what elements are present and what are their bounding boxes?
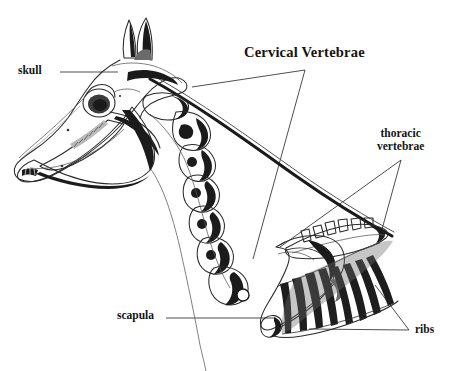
label-thoracic-line1: thoracic bbox=[377, 127, 424, 140]
label-thoracic-line2: vertebrae bbox=[377, 140, 424, 153]
label-scapula: scapula bbox=[117, 309, 154, 322]
vertebra-c7-foramen bbox=[237, 289, 249, 301]
label-cervical-vertebrae: Cervical Vertebrae bbox=[244, 44, 365, 60]
vertebra-c3-foramen bbox=[187, 157, 197, 167]
label-thoracic-vertebrae: thoracic vertebrae bbox=[377, 127, 424, 153]
supraorbital-foramen bbox=[119, 95, 121, 97]
label-ribs: ribs bbox=[415, 323, 434, 336]
horse-skeleton-illustration bbox=[0, 0, 453, 371]
label-skull: skull bbox=[18, 64, 42, 77]
orbit-socket-inner bbox=[93, 99, 107, 111]
vertebra-c5-foramen bbox=[197, 219, 207, 229]
anatomy-diagram: skull Cervical Vertebrae thoracic verteb… bbox=[0, 0, 453, 371]
mental-foramen bbox=[61, 165, 64, 168]
facial-foramen bbox=[67, 129, 70, 132]
diagram-background bbox=[0, 0, 453, 371]
